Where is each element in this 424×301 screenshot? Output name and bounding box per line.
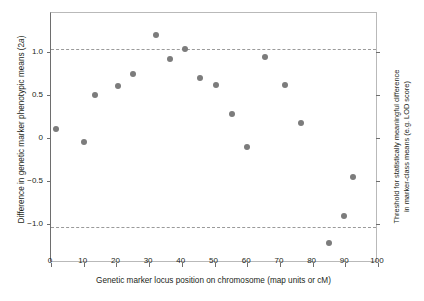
data-point — [262, 54, 268, 60]
data-point — [244, 144, 250, 150]
x-tick-label: 60 — [242, 256, 251, 265]
y-axis-title-italic-a: a — [17, 38, 26, 43]
y-tick-right — [376, 95, 380, 96]
threshold-line-upper — [51, 49, 376, 50]
data-point — [213, 82, 219, 88]
data-point — [115, 83, 121, 89]
y-tick-label: −0.5 — [27, 176, 50, 185]
right-axis-annotation-line1: Threshold for statistically meaningful d… — [392, 22, 402, 272]
data-point — [153, 32, 159, 38]
x-tick-label: 40 — [176, 256, 185, 265]
y-tick-right — [376, 224, 380, 225]
y-tick-right — [376, 52, 380, 53]
y-tick-label: 0 — [39, 133, 50, 142]
data-point — [298, 120, 304, 126]
y-axis-title-prefix: Difference in genetic marker phenotypic … — [17, 43, 26, 224]
y-axis-title-suffix: ) — [17, 36, 26, 39]
x-tick-label: 80 — [307, 256, 316, 265]
x-tick-label: 0 — [48, 256, 52, 265]
x-tick-label: 70 — [274, 256, 283, 265]
scatter-plot-figure: 0102030405060708090100 1.00.50−0.5−1.0 G… — [0, 0, 424, 301]
y-tick-label: 1.0 — [32, 46, 50, 55]
data-point — [53, 126, 59, 132]
data-point — [282, 82, 288, 88]
threshold-line-lower — [51, 227, 376, 228]
x-tick-label: 100 — [370, 256, 383, 265]
data-point — [350, 174, 356, 180]
x-tick-label: 20 — [111, 256, 120, 265]
data-point — [229, 111, 235, 117]
y-tick-right — [376, 181, 380, 182]
y-tick-right — [376, 138, 380, 139]
data-point — [197, 75, 203, 81]
right-axis-annotation: Threshold for statistically meaningful d… — [392, 22, 411, 272]
x-tick-label: 10 — [78, 256, 87, 265]
data-point — [326, 240, 332, 246]
data-point — [92, 92, 98, 98]
data-point — [167, 56, 173, 62]
data-point — [182, 46, 188, 52]
x-tick-label: 90 — [340, 256, 349, 265]
x-tick-label: 50 — [209, 256, 218, 265]
data-point — [81, 139, 87, 145]
y-tick-label: −1.0 — [27, 219, 50, 228]
right-axis-annotation-line2: in marker-class means (e.g. LOD score) — [402, 22, 412, 272]
x-axis-title: Genetic marker locus position on chromos… — [50, 276, 377, 285]
plot-area — [50, 12, 377, 262]
data-point — [341, 213, 347, 219]
y-axis-title: Difference in genetic marker phenotypic … — [17, 5, 26, 255]
y-tick-label: 0.5 — [32, 89, 50, 98]
data-point — [130, 71, 136, 77]
x-tick-label: 30 — [144, 256, 153, 265]
